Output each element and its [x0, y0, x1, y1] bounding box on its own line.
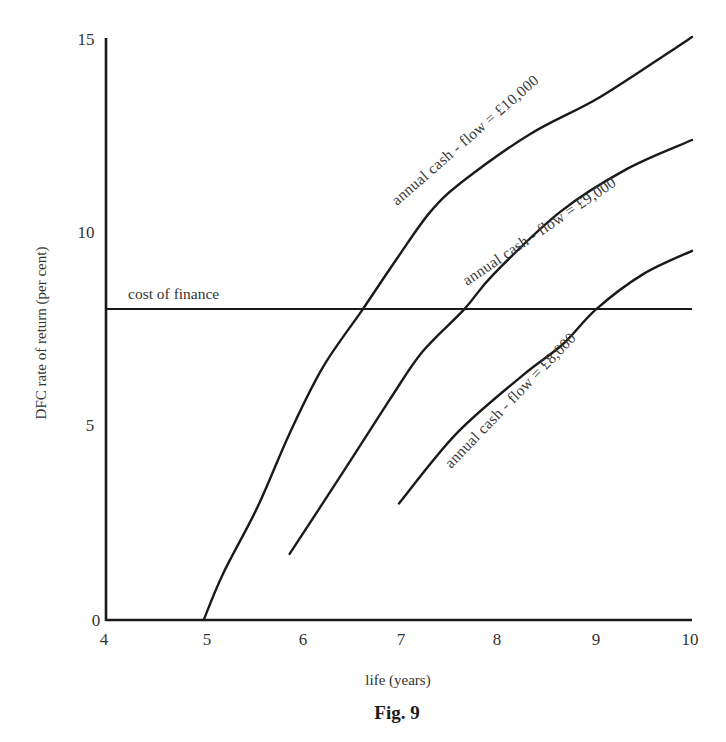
curve-group — [204, 37, 692, 620]
figure-caption: Fig. 9 — [374, 702, 419, 723]
curve-cash-flow-10000 — [204, 37, 692, 620]
dfc-rate-of-return-chart: cost of finance 15 10 5 0 4 5 6 7 8 9 10… — [0, 0, 726, 742]
x-tick-label-9: 9 — [592, 630, 601, 649]
curve-label-9000: annual cash - flow = £9,000 — [459, 173, 619, 288]
curve-label-10000: annual cash - flow = £10,000 — [388, 71, 542, 208]
y-tick-label-5: 5 — [86, 416, 95, 435]
x-axis-title: life (years) — [365, 672, 430, 689]
curve-label-8000: annual cash - flow = £8,000 — [441, 329, 579, 471]
cost-of-finance-label: cost of finance — [128, 285, 219, 302]
y-tick-label-15: 15 — [78, 30, 95, 49]
y-tick-label-0: 0 — [92, 611, 101, 630]
x-tick-label-5: 5 — [203, 630, 212, 649]
curve-cash-flow-9000 — [290, 140, 692, 554]
x-tick-label-6: 6 — [299, 630, 308, 649]
curve-cash-flow-8000 — [399, 251, 692, 504]
x-tick-label-10: 10 — [682, 630, 699, 649]
x-tick-label-7: 7 — [397, 630, 406, 649]
x-tick-label-4: 4 — [100, 630, 109, 649]
y-axis-title: DFC rate of return (per cent) — [33, 247, 50, 420]
x-tick-label-8: 8 — [493, 630, 502, 649]
y-tick-label-10: 10 — [78, 223, 95, 242]
